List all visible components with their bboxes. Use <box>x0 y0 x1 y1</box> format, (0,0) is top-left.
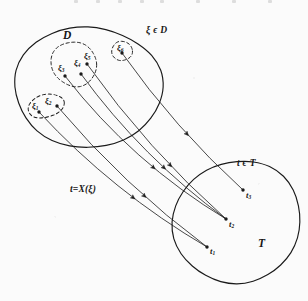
point-dot-xi3 <box>63 74 66 77</box>
point-dot-xi4 <box>79 72 82 75</box>
point-label-t1: t1 <box>210 247 215 257</box>
arrow-xi5-t2 <box>87 64 226 219</box>
mapping-label: t=X(ξ) <box>70 185 96 195</box>
membership-label-domain: ξ ϵ D <box>146 26 167 36</box>
point-dot-xi5 <box>85 62 88 65</box>
point-dot-t3 <box>241 188 244 191</box>
point-dot-xi2 <box>55 104 58 107</box>
arrows-layer <box>39 53 243 247</box>
region-label-t: T <box>258 238 265 250</box>
point-label-xi1: ξ1 <box>32 102 39 112</box>
point-dot-t2 <box>224 217 227 220</box>
point-label-xi6: ξ6 <box>117 44 124 54</box>
point-dot-t1 <box>205 245 208 248</box>
point-label-t3: t3 <box>246 191 251 201</box>
region-label-d: D <box>63 30 72 42</box>
point-label-t2: t2 <box>229 220 234 230</box>
point-label-xi5: ξ5 <box>84 52 91 62</box>
arrow-xi6-t3 <box>122 53 243 190</box>
point-label-xi2: ξ2 <box>45 97 52 107</box>
arrow-xi2-t1 <box>57 106 207 247</box>
point-label-xi4: ξ4 <box>74 59 81 69</box>
diagram-canvas <box>0 0 308 301</box>
region-outline-d <box>15 27 163 147</box>
mapping-diagram-figure: DTξ ϵ Dt ϵ Tt=X(ξ)ξ1ξ2ξ3ξ4ξ5ξ6t1t2t3 <box>0 0 308 301</box>
membership-label-codomain: t ϵ T <box>237 159 256 169</box>
region-outline-t <box>172 161 300 284</box>
arrow-xi1-t1 <box>39 112 207 247</box>
point-label-xi3: ξ3 <box>58 64 65 74</box>
